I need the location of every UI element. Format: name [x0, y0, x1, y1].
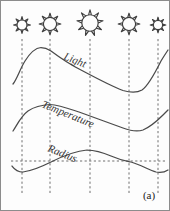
sun-icon [14, 17, 31, 34]
sun-disc-icon [17, 20, 27, 30]
sun-icon-row [14, 10, 166, 36]
sun-rays-icon [150, 17, 166, 33]
sun-rays-icon [118, 13, 140, 35]
sun-icon [77, 10, 103, 36]
figure-canvas: LightTemperatureRadius (a) [1, 1, 170, 211]
sun-disc-icon [82, 15, 98, 31]
sun-rays-icon [39, 13, 61, 35]
sun-icon [39, 13, 61, 35]
curve-labels-layer: LightTemperatureRadius [40, 49, 96, 164]
sun-disc-icon [153, 20, 162, 29]
sun-icon [150, 17, 166, 33]
sun-disc-icon [122, 17, 135, 30]
curve-label-temperature: Temperature [40, 98, 96, 130]
panel-tag: (a) [143, 189, 156, 202]
sun-rays-icon [14, 17, 31, 34]
astronomy-variability-figure: LightTemperatureRadius (a) [0, 0, 170, 211]
sun-disc-icon [43, 17, 56, 30]
sun-icon [118, 13, 140, 35]
